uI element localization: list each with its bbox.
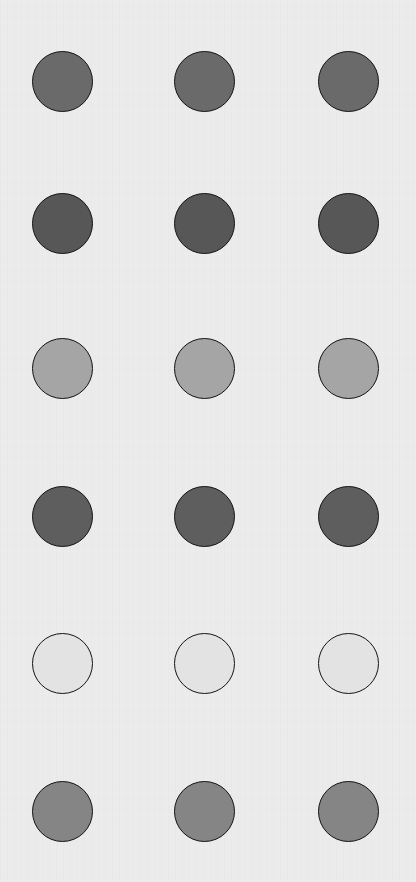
- circle-r4-c2[interactable]: [174, 486, 235, 547]
- circle-r1-c3[interactable]: [318, 51, 379, 112]
- circle-r5-c2[interactable]: [174, 633, 235, 694]
- circle-r2-c1[interactable]: [32, 193, 93, 254]
- circle-r4-c1[interactable]: [32, 486, 93, 547]
- circle-r1-c1[interactable]: [32, 51, 93, 112]
- circle-grid: [0, 0, 416, 882]
- circle-r2-c2[interactable]: [174, 193, 235, 254]
- circle-r5-c1[interactable]: [32, 633, 93, 694]
- circle-r3-c2[interactable]: [174, 338, 235, 399]
- circle-r6-c1[interactable]: [32, 781, 93, 842]
- circle-r5-c3[interactable]: [318, 633, 379, 694]
- circle-r4-c3[interactable]: [318, 486, 379, 547]
- circle-r6-c3[interactable]: [318, 781, 379, 842]
- circle-r6-c2[interactable]: [174, 781, 235, 842]
- circle-r1-c2[interactable]: [174, 51, 235, 112]
- circle-r2-c3[interactable]: [318, 193, 379, 254]
- circle-r3-c1[interactable]: [32, 338, 93, 399]
- circle-r3-c3[interactable]: [318, 338, 379, 399]
